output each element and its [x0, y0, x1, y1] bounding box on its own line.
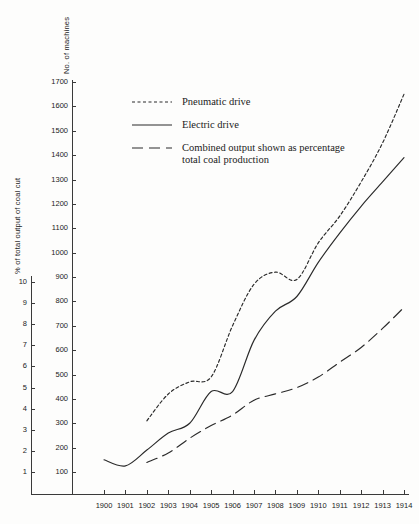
chart-figure: No. of machines % of total output of coa… [0, 0, 419, 524]
series-plot-area [0, 0, 419, 524]
series-line-dashed [147, 307, 404, 462]
series-line-solid [104, 158, 404, 467]
series-line-dotted [147, 94, 404, 421]
